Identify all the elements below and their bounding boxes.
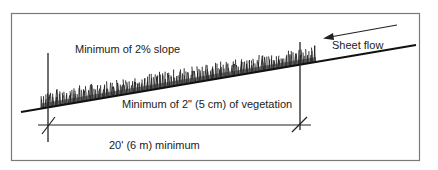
length-label: 20' (6 m) minimum	[109, 140, 200, 151]
diagram-graphic	[0, 0, 438, 170]
vegetation-label: Minimum of 2" (5 cm) of vegetation	[122, 99, 292, 110]
filter-strip-diagram: Minimum of 2% slope Sheet flow Minimum o…	[0, 0, 438, 170]
sheet-flow-arrow-icon	[323, 25, 397, 40]
slope-label: Minimum of 2% slope	[75, 44, 180, 55]
diagram-frame	[12, 14, 420, 161]
sheet-flow-label: Sheet flow	[332, 40, 383, 51]
